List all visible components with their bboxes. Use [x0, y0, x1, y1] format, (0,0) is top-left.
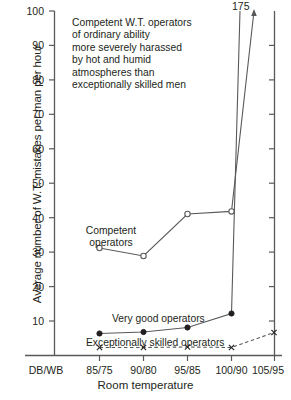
commentary-line-3: more severely harassed	[72, 42, 192, 54]
y-tick-label-30: 30	[14, 246, 44, 258]
commentary-line-4: by hot and humid	[72, 54, 192, 66]
y-tick-label-60: 60	[14, 143, 44, 155]
chart-container: Average number of W.T. mistakes per man …	[0, 0, 291, 400]
x-tick-label-85-75: 85/75	[86, 364, 112, 376]
series-label-competent-operators-line-1: Competent	[75, 225, 147, 237]
right-axis-ticks	[269, 45, 275, 321]
y-tick-label-70: 70	[14, 108, 44, 120]
y-axis-ticks	[49, 11, 55, 321]
x-tick-label-90-80: 90/80	[130, 364, 156, 376]
commentary-line-2: of ordinary ability	[72, 29, 192, 41]
y-tick-label-50: 50	[14, 177, 44, 189]
x-tick-label-105-95: 105/95	[252, 364, 284, 376]
y-axis-title: Average number of W.T. mistakes per man …	[31, 24, 43, 324]
x-tick-label-dbwb: DB/WB	[29, 364, 63, 376]
x-axis-title: Room temperature	[0, 379, 291, 391]
series-label-very-good-operators: Very good operators	[112, 313, 205, 325]
series-label-competent-operators-line-2: operators	[75, 237, 147, 249]
y-tick-label-40: 40	[14, 212, 44, 224]
commentary-line-5: atmospheres than	[72, 67, 192, 79]
x-axis-ticks	[100, 356, 275, 362]
off-scale-peak-label: 175	[232, 0, 250, 12]
y-tick-label-20: 20	[14, 281, 44, 293]
y-tick-label-90: 90	[14, 39, 44, 51]
x-tick-label-100-90: 100/90	[215, 364, 247, 376]
y-tick-label-10: 10	[14, 315, 44, 327]
off-scale-arrow-icon	[251, 9, 257, 16]
commentary-line-1: Competent W.T. operators	[72, 17, 192, 29]
commentary-line-6: exceptionally skilled men	[72, 79, 192, 91]
series-label-competent-operators: Competent operators	[75, 225, 147, 248]
y-tick-label-80: 80	[14, 74, 44, 86]
y-tick-label-100: 100	[14, 5, 44, 17]
x-tick-label-95-85: 95/85	[174, 364, 200, 376]
commentary-annotation: Competent W.T. operators of ordinary abi…	[72, 17, 192, 91]
series-label-exceptionally-skilled-operators: Exceptionally skilled operators	[86, 337, 225, 349]
